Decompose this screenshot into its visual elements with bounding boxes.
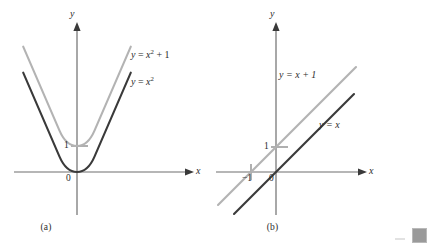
panel-a-dark-exp: 2 [151, 75, 154, 82]
panel-b-x-axis-arrowhead [358, 169, 367, 176]
panel-b-lines: y x 1 −1 0 y = x + 1 y = x (b) [216, 0, 433, 251]
panel-a-x-axis-arrowhead [185, 169, 194, 176]
panel-b-x-tick-label: −1 [242, 173, 252, 183]
panel-a-dark-eq: = [138, 76, 144, 87]
panel-b-y-axis-arrowhead [272, 22, 279, 31]
panel-a-light-eq: = [138, 49, 144, 60]
panel-b-caption: (b) [164, 222, 381, 232]
panel-b-line-light [218, 67, 356, 205]
panel-b-line-light-label: y = x + 1 [279, 69, 316, 80]
panel-a-parabolas: y x 0 1 y = x2 + 1 y = x2 (a) [0, 0, 216, 251]
panel-b-x-axis-label: x [369, 165, 373, 176]
panel-a-curve-dark-label: y = x2 [131, 76, 154, 87]
panel-b-y-tick-label: 1 [264, 141, 269, 151]
panel-b-y-axis-label: y [270, 8, 274, 19]
panel-b-line-dark [234, 94, 354, 214]
panel-b-line-dark-label: y = x [319, 119, 340, 130]
panel-b-origin-label: 0 [269, 173, 274, 183]
panel-a-y-axis-arrowhead [73, 22, 80, 31]
panel-a-y-tick-label: 1 [64, 140, 69, 150]
panel-a-x-axis-label: x [196, 165, 200, 176]
panel-a-origin-label: 0 [66, 173, 71, 183]
panel-a-dark-lhs: y [131, 76, 135, 87]
panel-a-caption: (a) [0, 222, 154, 232]
figure-root: y x 0 1 y = x2 + 1 y = x2 (a) [0, 0, 433, 251]
panel-a-light-exp: 2 [151, 48, 154, 55]
panel-a-plot [0, 0, 216, 251]
panel-a-curve-light-label: y = x2 + 1 [131, 49, 170, 60]
corner-smudge-artifact [395, 238, 405, 240]
panel-a-y-axis-label: y [70, 8, 74, 19]
panel-a-light-tail: + 1 [156, 49, 169, 60]
corner-square-artifact [412, 228, 427, 243]
panel-a-light-lhs: y [131, 49, 135, 60]
